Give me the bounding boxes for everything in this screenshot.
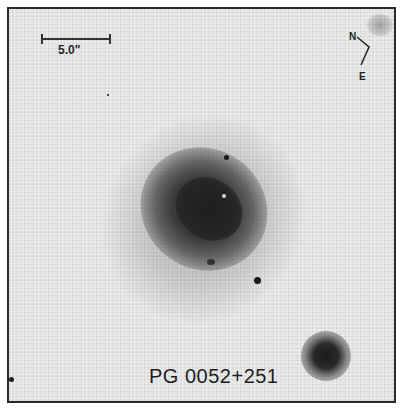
image-frame: 5.0" N E PG 0052+251 bbox=[7, 7, 396, 403]
scale-bar-label: 5.0" bbox=[58, 43, 80, 57]
compass-north-label: N bbox=[349, 31, 356, 42]
compass-icon: N E bbox=[347, 27, 387, 77]
star bbox=[224, 155, 229, 160]
star bbox=[254, 277, 261, 284]
companion-galaxy bbox=[301, 331, 351, 381]
star bbox=[207, 259, 215, 265]
compass-east-label: E bbox=[359, 71, 366, 82]
object-name-label: PG 0052+251 bbox=[149, 365, 279, 388]
star bbox=[107, 94, 109, 96]
quasar-nucleus bbox=[222, 194, 226, 198]
star bbox=[9, 377, 14, 382]
